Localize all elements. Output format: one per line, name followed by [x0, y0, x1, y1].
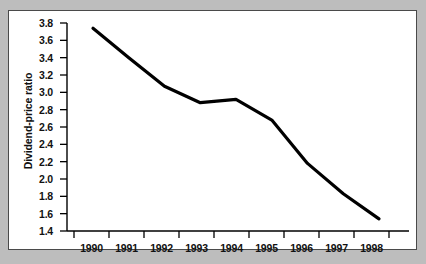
- y-tick-label: 1.8: [23, 190, 53, 202]
- y-tick-label: 3.6: [23, 34, 53, 46]
- line-chart: [9, 11, 418, 251]
- caption-strip: [8, 252, 417, 264]
- y-tick-label: 1.6: [23, 208, 53, 220]
- plot-area: 3.8 3.6 3.4 3.2 3.0 2.8 2.6 2.4 2.2 2.0 …: [9, 11, 418, 251]
- y-tick-label: 1.4: [23, 225, 53, 237]
- x-axis-ticks: [74, 231, 389, 238]
- dividend-price-ratio-line: [93, 28, 379, 219]
- figure-page: 3.8 3.6 3.4 3.2 3.0 2.8 2.6 2.4 2.2 2.0 …: [0, 0, 426, 264]
- y-tick-label: 3.8: [23, 17, 53, 29]
- y-axis-ticks: [60, 23, 67, 231]
- y-axis-title: Dividend-price ratio: [22, 56, 34, 186]
- figure-frame: 3.8 3.6 3.4 3.2 3.0 2.8 2.6 2.4 2.2 2.0 …: [8, 10, 417, 250]
